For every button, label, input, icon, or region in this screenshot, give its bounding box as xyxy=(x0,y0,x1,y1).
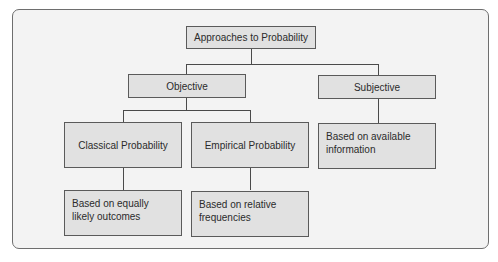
connector-objective-down xyxy=(186,97,187,110)
connector-to-objective xyxy=(186,64,187,74)
empirical-description-node: Based on relative frequencies xyxy=(191,191,309,237)
root-node: Approaches to Probability xyxy=(186,26,316,49)
subjective-description-label: Based on available information xyxy=(326,131,411,155)
connector-empirical-down xyxy=(250,167,251,190)
empirical-node-label: Empirical Probability xyxy=(205,139,296,152)
classical-description-label: Based on equally likely outcomes xyxy=(72,198,149,222)
connector-to-subjective xyxy=(378,64,379,75)
subjective-node-label: Subjective xyxy=(354,81,400,94)
connector-to-empirical xyxy=(250,110,251,122)
subjective-node: Subjective xyxy=(318,75,436,99)
subjective-description-node: Based on available information xyxy=(318,123,436,169)
objective-node-label: Objective xyxy=(166,80,208,93)
objective-node: Objective xyxy=(128,74,246,98)
connector-root-down xyxy=(251,48,252,64)
connector-classical-down xyxy=(123,167,124,190)
empirical-node: Empirical Probability xyxy=(191,122,309,168)
empirical-description-label: Based on relative frequencies xyxy=(199,199,276,223)
connector-to-classical xyxy=(123,110,124,122)
classical-description-node: Based on equally likely outcomes xyxy=(64,190,182,236)
connector-level2-bar xyxy=(123,110,251,111)
root-node-label: Approaches to Probability xyxy=(194,31,308,44)
classical-node-label: Classical Probability xyxy=(78,139,167,152)
connector-level1-bar xyxy=(186,64,379,65)
classical-node: Classical Probability xyxy=(64,122,182,168)
connector-subjective-down xyxy=(378,98,379,123)
